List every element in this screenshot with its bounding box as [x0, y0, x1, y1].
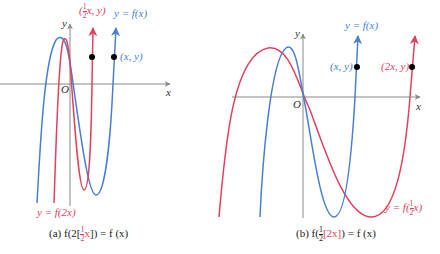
- origin-label: O: [293, 98, 301, 110]
- point-blue: [354, 64, 360, 70]
- blue-point-label: (x, y): [120, 50, 143, 62]
- blue-point-label: (x, y): [330, 60, 353, 72]
- red-point-label: (12x, y): [79, 3, 106, 20]
- y-axis-label: y: [62, 17, 67, 29]
- red-point-label: (2x, y): [381, 60, 409, 72]
- caption-b: (b) f(12[2x]) = f (x): [296, 226, 376, 243]
- x-axis-label: x: [416, 100, 421, 112]
- origin-label: O: [61, 83, 69, 95]
- point-red: [409, 64, 415, 70]
- x-axis-label: x: [166, 86, 171, 98]
- curve-f-x: [37, 28, 116, 203]
- curve-f-x-label: y = f(x): [114, 7, 147, 19]
- point-blue: [111, 54, 117, 60]
- point-red: [89, 54, 95, 60]
- panel-a: [0, 24, 170, 206]
- curve-f-x-label: y = f(x): [345, 19, 378, 31]
- y-axis-label: y: [295, 27, 300, 39]
- caption-a: (a) f(2[12x]) = f (x): [49, 226, 128, 243]
- curve-f-half-x-label: y = f(12x): [385, 200, 422, 217]
- curve-f-2x: [54, 28, 93, 203]
- curve-f-2x-label: y = f(2x): [37, 206, 76, 218]
